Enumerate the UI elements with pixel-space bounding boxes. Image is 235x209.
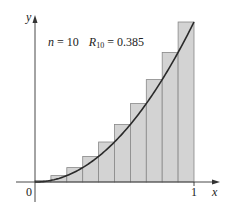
y-axis-label: y <box>25 10 32 24</box>
annotation: n = 10R10= 0.385 <box>48 35 144 50</box>
bar-10 <box>178 22 194 182</box>
bar-8 <box>146 80 162 182</box>
bar-4 <box>83 156 99 182</box>
x-axis-label: x <box>211 185 218 199</box>
y-axis-arrow-icon <box>33 15 38 23</box>
bar-5 <box>99 142 115 182</box>
bar-9 <box>162 52 178 182</box>
x-tick-label-0: 0 <box>26 185 32 199</box>
riemann-sum-chart: y x 0 1 n = 10R10= 0.385 <box>0 0 235 209</box>
x-axis-arrow-icon <box>212 180 220 185</box>
x-tick-label-1: 1 <box>191 185 197 199</box>
